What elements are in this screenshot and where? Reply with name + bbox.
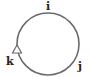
label-i: i xyxy=(46,1,50,12)
label-k: k xyxy=(6,56,14,67)
label-j: j xyxy=(78,61,82,72)
arrowhead-icon xyxy=(13,45,22,53)
cycle-circle xyxy=(17,13,79,75)
